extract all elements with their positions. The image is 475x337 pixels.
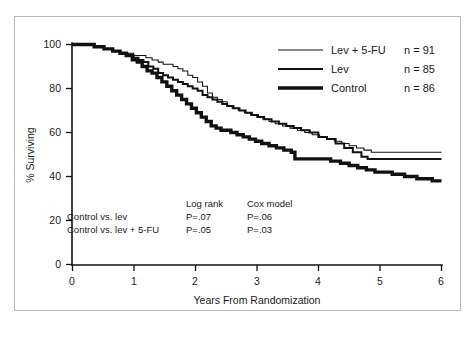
stats-header-cox: Cox model: [247, 198, 292, 209]
y-tick-label-80: 80: [49, 82, 61, 94]
stats-block: Log rank Cox model Control vs. lev P=.07…: [67, 198, 292, 235]
y-tick-label-0: 0: [55, 258, 61, 270]
y-axis-title: % Surviving: [24, 127, 36, 183]
legend-count-lev-5fu: n = 91: [404, 44, 435, 56]
legend-label-control: Control: [331, 82, 366, 94]
x-tick-label-0: 0: [69, 275, 75, 287]
stats-row-1-cox: P=.06: [247, 211, 272, 222]
y-tick-label-100: 100: [43, 38, 61, 50]
survival-curve-lev-5fu: [72, 45, 442, 153]
legend-count-control: n = 86: [404, 82, 435, 94]
stats-row-2-cox: P=.03: [247, 224, 272, 235]
x-tick-label-3: 3: [254, 275, 260, 287]
legend-count-lev: n = 85: [404, 63, 435, 75]
stats-header-log-rank: Log rank: [186, 198, 223, 209]
x-axis-title: Years From Randomization: [194, 294, 321, 306]
survival-chart: 0 20 40 60 80 100 % Surviving 0 1 2 3 4 …: [0, 0, 475, 337]
survival-curve-control: [72, 45, 442, 181]
y-tick-label-60: 60: [49, 126, 61, 138]
legend-label-lev-5fu: Lev + 5-FU: [331, 44, 386, 56]
x-tick-label-1: 1: [131, 275, 137, 287]
x-tick-label-4: 4: [315, 275, 321, 287]
legend-label-lev: Lev: [331, 63, 349, 75]
caption-strip: [14, 323, 461, 335]
x-tick-label-2: 2: [192, 275, 198, 287]
y-tick-label-40: 40: [49, 170, 61, 182]
x-tick-label-5: 5: [377, 275, 383, 287]
x-axis-ticks: [73, 265, 442, 271]
stats-row-1-log-rank: P=.07: [186, 211, 211, 222]
stats-row-2-log-rank: P=.05: [186, 224, 211, 235]
legend: Lev + 5-FU n = 91 Lev n = 85 Control n =…: [278, 44, 435, 94]
y-tick-label-20: 20: [49, 214, 61, 226]
stats-row-1-comparison: Control vs. lev: [67, 211, 127, 222]
stats-row-2-comparison: Control vs. lev + 5-FU: [67, 224, 159, 235]
x-tick-label-6: 6: [438, 275, 444, 287]
